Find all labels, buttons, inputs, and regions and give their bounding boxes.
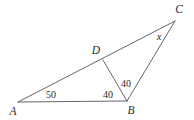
segment-ac: [18, 21, 175, 102]
vertex-label-c: C: [175, 4, 183, 16]
vertex-label-d: D: [92, 45, 100, 57]
vertex-label-b: B: [127, 105, 134, 117]
figure-svg: [0, 0, 194, 120]
angle-label-a: 50: [46, 90, 56, 100]
vertex-label-a: A: [9, 106, 16, 118]
segment-ab: [18, 101, 127, 102]
geometry-diagram: A B C D 50 40 40 x: [0, 0, 194, 120]
angle-label-abd: 40: [103, 90, 113, 100]
angle-label-x: x: [157, 32, 162, 43]
angle-label-dbc: 40: [121, 79, 131, 89]
